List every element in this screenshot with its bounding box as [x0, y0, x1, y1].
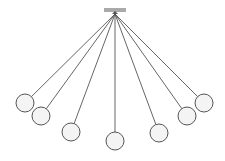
pendulum-bob	[195, 94, 213, 112]
pendulum-string	[74, 14, 115, 124]
support-bar	[104, 9, 126, 14]
pendulum-string	[115, 14, 182, 109]
pendulum-string	[115, 14, 156, 125]
pendulum-string	[115, 14, 198, 97]
pendulum-bob	[16, 94, 34, 112]
pendulum-bob	[178, 107, 196, 125]
pendulum-bob	[62, 123, 80, 141]
pendulum-string	[46, 14, 115, 109]
pendulum-bobs	[16, 94, 213, 150]
pendulum-bob	[106, 132, 124, 150]
pendulum-diagram	[0, 0, 225, 161]
pendulum-bob	[32, 107, 50, 125]
pendulum-string	[31, 14, 115, 97]
pendulum-strings	[31, 14, 197, 132]
pendulum-bob	[150, 124, 168, 142]
